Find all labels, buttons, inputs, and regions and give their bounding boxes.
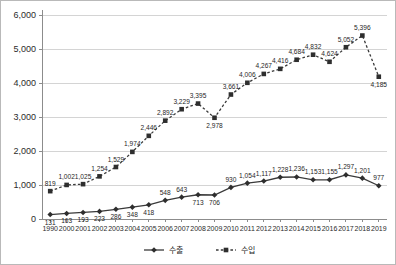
data-point-label: 223 (94, 215, 105, 222)
data-point-marker (245, 80, 250, 85)
data-point-label: 1,529 (108, 156, 125, 163)
data-point-marker (261, 72, 266, 77)
data-point-marker (80, 210, 86, 216)
y-axis-tick-label: 3,000 (13, 112, 36, 122)
data-point-label: 819 (45, 180, 56, 187)
x-axis-tick-label: 2012 (256, 225, 272, 232)
x-axis-tick-label: 2006 (157, 225, 173, 232)
data-point-label: 2,892 (157, 109, 174, 116)
legend-marker (151, 247, 157, 253)
x-axis-tick-label: 2003 (108, 225, 124, 232)
data-point-marker (162, 198, 168, 204)
data-point-marker (310, 177, 316, 183)
y-axis-tick-label: 4,000 (13, 78, 36, 88)
data-point-marker (163, 118, 168, 123)
x-axis-tick-label: 2017 (338, 225, 354, 232)
data-point-marker (130, 150, 135, 155)
data-point-label: 706 (209, 199, 220, 206)
data-point-marker (229, 92, 234, 97)
data-point-label: 348 (127, 211, 138, 218)
data-point-label: 1,054 (239, 172, 256, 179)
data-point-marker (48, 189, 53, 194)
data-point-label: 3,395 (190, 92, 207, 99)
x-axis-tick-label: 2002 (92, 225, 108, 232)
x-axis-tick-label: 2018 (355, 225, 371, 232)
data-point-label: 163 (61, 217, 72, 224)
data-point-marker (196, 101, 201, 106)
data-point-label: 1,155 (321, 168, 338, 175)
y-axis-tick-label: 5,000 (13, 44, 36, 54)
data-point-marker (344, 45, 349, 50)
y-axis: 01,0002,0003,0004,0005,0006,000 (13, 10, 42, 224)
data-point-label: 4,185 (371, 81, 388, 88)
legend-label-수출: 수출 (169, 245, 183, 255)
y-axis-tick-label: 0 (31, 214, 36, 224)
data-point-marker (146, 134, 151, 139)
y-axis-tick-label: 1,000 (13, 180, 36, 190)
x-axis-tick-label: 2005 (141, 225, 157, 232)
data-point-label: 1,025 (75, 173, 92, 180)
y-axis-tick-label: 6,000 (13, 10, 36, 20)
data-point-label: 1,201 (354, 167, 371, 174)
data-point-marker (376, 183, 382, 189)
data-point-label: 1,153 (305, 168, 322, 175)
data-point-label: 4,832 (305, 43, 322, 50)
data-point-label: 713 (193, 199, 204, 206)
data-point-label: 4,624 (321, 50, 338, 57)
x-axis-tick-label: 2009 (207, 225, 223, 232)
data-point-label: 131 (45, 219, 56, 226)
data-point-label: 4,006 (239, 71, 256, 78)
data-point-marker (114, 165, 119, 170)
y-axis-tick-label: 2,000 (13, 146, 36, 156)
data-point-label: 3,661 (223, 83, 240, 90)
x-axis-tick-label: 2007 (174, 225, 190, 232)
data-point-marker (97, 174, 102, 179)
data-point-label: 418 (143, 209, 154, 216)
data-point-label: 193 (78, 216, 89, 223)
data-point-label: 930 (225, 176, 236, 183)
data-point-marker (360, 33, 365, 38)
data-point-label: 977 (373, 174, 384, 181)
x-axis-tick-label: 2019 (371, 225, 387, 232)
data-point-marker (376, 74, 381, 79)
data-point-label: 4,416 (272, 57, 289, 64)
data-point-label: 4,267 (256, 62, 273, 69)
x-axis-tick-label: 2008 (190, 225, 206, 232)
data-point-marker (311, 52, 316, 57)
data-point-marker (146, 202, 152, 208)
data-point-label: 1,297 (338, 163, 355, 170)
x-axis-tick-label: 2010 (223, 225, 239, 232)
data-point-label: 5,052 (338, 36, 355, 43)
data-point-marker (327, 59, 332, 64)
data-point-marker (261, 178, 267, 184)
data-point-marker (179, 107, 184, 112)
chart-container: 01,0002,0003,0004,0005,0006,000 19902000… (0, 0, 396, 265)
data-point-marker (360, 175, 366, 181)
data-point-marker (327, 177, 333, 183)
legend-marker (224, 248, 229, 253)
data-point-marker (64, 183, 69, 188)
x-axis-tick-label: 2013 (272, 225, 288, 232)
data-point-marker (97, 209, 103, 215)
x-axis-tick-label: 2001 (75, 225, 91, 232)
data-point-label: 1,974 (124, 140, 141, 147)
data-point-label: 1,228 (272, 166, 289, 173)
data-point-marker (81, 182, 86, 187)
x-axis-tick-label: 2011 (240, 225, 255, 232)
data-point-label: 1,254 (91, 165, 108, 172)
line-chart: 01,0002,0003,0004,0005,0006,000 19902000… (1, 1, 396, 265)
data-point-label: 2,446 (141, 124, 158, 131)
data-point-label: 1,117 (256, 170, 272, 177)
x-axis-tick-label: 2014 (289, 225, 305, 232)
data-point-label: 1,236 (288, 165, 305, 172)
x-axis-tick-label: 1990 (42, 225, 58, 232)
data-point-label: 548 (160, 189, 171, 196)
legend-label-수입: 수입 (241, 246, 255, 255)
grid-lines (42, 15, 387, 185)
data-point-marker (113, 206, 119, 212)
data-point-label: 286 (110, 213, 121, 220)
data-point-label: 643 (176, 186, 187, 193)
data-point-marker (343, 172, 349, 178)
data-point-marker (212, 192, 218, 198)
data-point-marker (294, 57, 299, 62)
